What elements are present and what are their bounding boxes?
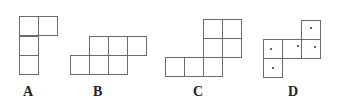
grid-square — [108, 36, 128, 56]
grid-square — [38, 16, 58, 36]
grid-square — [127, 36, 147, 56]
dot-mark — [272, 67, 274, 69]
figure-label: A — [23, 84, 33, 100]
grid-square — [203, 19, 223, 39]
grid-square — [165, 57, 185, 77]
figure-label: D — [288, 84, 298, 100]
grid-square — [89, 36, 109, 56]
grid-square — [89, 55, 109, 75]
grid-square — [222, 19, 242, 39]
figure-label: C — [193, 84, 203, 100]
grid-square — [19, 16, 39, 36]
dot-mark — [314, 46, 316, 48]
grid-square — [203, 57, 223, 77]
dot-mark — [310, 27, 312, 29]
grid-square — [301, 39, 321, 59]
figure-label: B — [93, 84, 102, 100]
grid-square — [184, 57, 204, 77]
grid-square — [108, 55, 128, 75]
grid-square — [203, 38, 223, 58]
grid-square — [19, 36, 39, 56]
grid-square — [263, 39, 283, 59]
grid-square — [19, 55, 39, 75]
grid-square — [301, 20, 321, 40]
grid-square — [282, 39, 302, 59]
grid-square — [70, 55, 90, 75]
dot-mark — [297, 45, 299, 47]
dot-mark — [270, 48, 272, 50]
grid-square — [222, 38, 242, 58]
